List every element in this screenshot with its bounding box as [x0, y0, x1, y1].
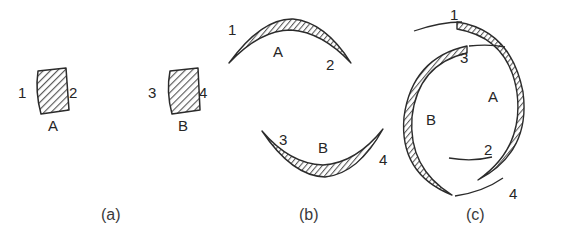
panel-a-shape-A — [37, 68, 69, 114]
figure-container: 1 2 A 3 4 B 1 2 A 3 4 B 1 2 A 3 4 B (a) … — [0, 0, 568, 251]
panel-b-shape-B-end-label-3: 3 — [279, 132, 287, 147]
panel-c-shape-A-end-label-1: 1 — [450, 7, 458, 22]
panel-c-shape-A-end-label-2: 2 — [484, 142, 492, 157]
panel-a-shape-B — [168, 68, 200, 114]
panel-a-shape-A-part-label: A — [48, 118, 58, 133]
panel-c-tail-1 — [414, 22, 462, 31]
panel-c-shape-B-part-label: B — [426, 112, 436, 127]
panel-b-caption: (b) — [299, 206, 319, 224]
panel-a-shape-B-end-label-4: 4 — [199, 85, 207, 100]
panel-c-tail-3 — [469, 45, 505, 47]
panel-b-shape-B-end-label-4: 4 — [379, 152, 387, 167]
panel-b-shape-B-part-label: B — [318, 140, 328, 155]
panel-b-shape-A-end-label-2: 2 — [326, 57, 334, 72]
panel-a-caption: (a) — [101, 206, 121, 224]
panel-c-tail-4 — [455, 178, 503, 196]
panel-a-shape-B-part-label: B — [178, 118, 188, 133]
panel-c-shape-B-end-label-3: 3 — [460, 50, 468, 65]
panel-b-shape-A-end-label-1: 1 — [228, 22, 236, 37]
panel-a-shape-A-end-label-1: 1 — [18, 85, 26, 100]
panel-a-shape-B-end-label-3: 3 — [148, 85, 156, 100]
panel-c-shape-A-part-label: A — [488, 89, 498, 104]
panel-c-caption: (c) — [466, 206, 485, 224]
panel-a-shape-A-end-label-2: 2 — [69, 85, 77, 100]
panel-b-shape-A-part-label: A — [273, 44, 283, 59]
panel-c-shape-B-end-label-4: 4 — [509, 186, 517, 201]
